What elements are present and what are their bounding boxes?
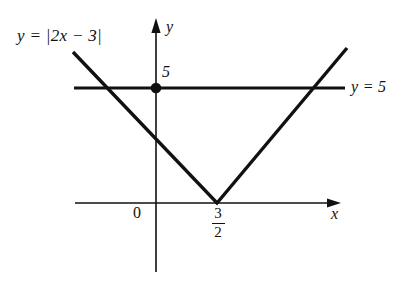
label-origin: 0 [133,205,141,221]
y-intercept-dot [151,83,162,94]
label-horizontal-line-equation: y = 5 [351,79,386,95]
label-absolute-value-equation: y = |2x − 3| [17,27,102,44]
label-y-intercept-value: 5 [162,64,170,80]
vertex-fraction-denominator: 2 [207,225,229,241]
label-vertex-x-value: 3 2 [207,206,229,241]
label-y-axis: y [166,19,173,35]
vertex-fraction-numerator: 3 [207,206,229,222]
y-axis-arrowhead [151,18,160,33]
curve-absolute-value [73,48,347,203]
label-x-axis: x [331,206,338,222]
figure-canvas: y = |2x − 3| y x 5 0 y = 5 3 2 [0,0,412,287]
